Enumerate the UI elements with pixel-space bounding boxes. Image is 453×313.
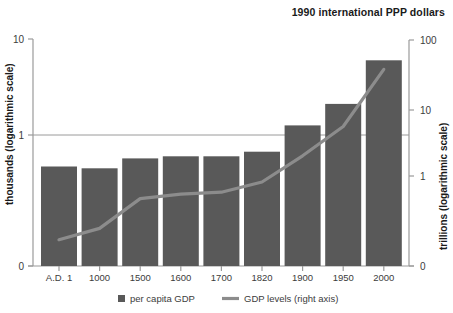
x-axis-group: A.D. 110001500160017001820190019502000 — [46, 266, 395, 283]
bar-a-d-1 — [41, 167, 77, 267]
ytick-label-10: 10 — [13, 34, 25, 45]
ytick-label-1: 1 — [18, 130, 24, 141]
y2tick-label-100: 100 — [420, 35, 437, 46]
y2-axis-title: trillions (logarithmic scale) — [438, 123, 449, 250]
xtick-label-a-d-1: A.D. 1 — [46, 272, 72, 283]
xtick-label-1900: 1900 — [292, 272, 313, 283]
bar-1820 — [244, 152, 280, 266]
bar-series — [41, 60, 402, 266]
xtick-label-2000: 2000 — [373, 272, 394, 283]
legend-label-gdp-levels: GDP levels (right axis) — [244, 293, 338, 304]
chart-container: 1990 international PPP dollars 10 1 0 10… — [0, 0, 453, 313]
bar-1500 — [122, 158, 158, 266]
xtick-label-1950: 1950 — [333, 272, 354, 283]
legend-label-per-capita-gdp: per capita GDP — [130, 293, 195, 304]
gdp-chart: 10 1 0 100 10 1 0 thousands (logarithmic… — [0, 0, 453, 313]
chart-legend: per capita GDP GDP levels (right axis) — [118, 293, 338, 304]
legend-swatch-bar — [118, 295, 125, 302]
bar-1700 — [203, 156, 239, 266]
xtick-label-1700: 1700 — [211, 272, 232, 283]
xtick-label-1500: 1500 — [130, 272, 151, 283]
xtick-label-1820: 1820 — [251, 272, 272, 283]
bar-1600 — [163, 156, 199, 266]
y2tick-label-10: 10 — [420, 105, 432, 116]
y2tick-label-1: 1 — [420, 171, 426, 182]
y-axis-title: thousands (logarithmic scale) — [4, 63, 15, 205]
xtick-label-1600: 1600 — [170, 272, 191, 283]
y2tick-label-0: 0 — [420, 261, 426, 272]
xtick-label-1000: 1000 — [89, 272, 110, 283]
ytick-label-0: 0 — [18, 261, 24, 272]
bar-2000 — [366, 60, 402, 266]
bar-1000 — [82, 168, 118, 266]
